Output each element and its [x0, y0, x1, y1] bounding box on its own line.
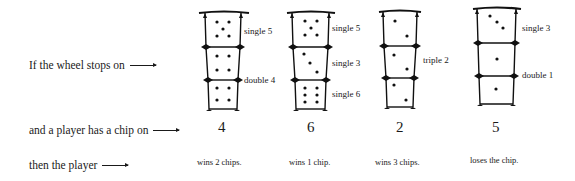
result-label-text: then the player: [29, 159, 97, 171]
outcome-2: wins 1 chip.: [289, 157, 330, 167]
dice-cage-1: [198, 0, 250, 115]
dice-label-single-3: single 3: [332, 58, 360, 68]
outcome-1: wins 2 chips.: [197, 157, 242, 167]
dice-label-triple-2: triple 2: [423, 55, 449, 65]
chip-number-2: 6: [307, 119, 315, 136]
row-label-wheel: If the wheel stops on: [29, 59, 156, 71]
row-label-chip: and a player has a chip on: [29, 124, 179, 136]
chip-number-1: 4: [218, 119, 226, 136]
dice-label-single-6: single 6: [332, 89, 360, 99]
dice-label-single-3: single 3: [522, 23, 550, 33]
chip-label-text: and a player has a chip on: [29, 124, 148, 136]
right-arrow-icon: [153, 130, 179, 131]
dice-cage-4: [472, 0, 524, 115]
dice-label-single-5: single 5: [244, 26, 272, 36]
right-arrow-icon: [102, 165, 128, 166]
chip-number-3: 2: [396, 119, 404, 136]
right-arrow-icon: [130, 65, 156, 66]
dice-label-double-4: double 4: [244, 75, 275, 85]
dice-label-single-5: single 5: [332, 23, 360, 33]
dice-cage-2: [286, 0, 338, 115]
outcome-4: loses the chip.: [470, 155, 518, 165]
row-label-result: then the player: [29, 159, 128, 171]
wheel-label-text: If the wheel stops on: [29, 59, 125, 71]
outcome-3: wins 3 chips.: [375, 157, 420, 167]
chip-number-4: 5: [492, 119, 500, 136]
dice-label-double-1: double 1: [522, 70, 553, 80]
